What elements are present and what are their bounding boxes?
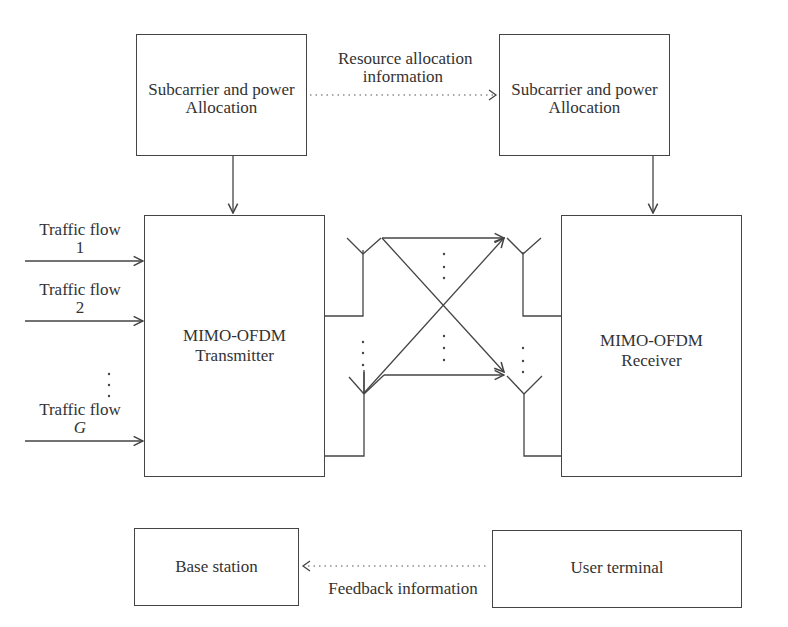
traffic-flow-1-label: Traffic flow bbox=[25, 221, 135, 239]
channel-ellipsis-bottom bbox=[443, 335, 445, 361]
rx-antenna-2-icon bbox=[507, 376, 542, 394]
receiver-line1: MIMO-OFDM bbox=[562, 332, 741, 350]
user-terminal-block: User terminal bbox=[492, 530, 742, 608]
traffic-flow-g-index: G bbox=[25, 419, 135, 437]
traffic-flow-2-index: 2 bbox=[25, 299, 135, 317]
channel-ellipsis-top bbox=[443, 253, 445, 279]
feedback-information-label: Feedback information bbox=[318, 580, 488, 598]
tx-antenna-ellipsis-dots bbox=[362, 341, 364, 366]
rx-allocation-line1: Subcarrier and power bbox=[500, 81, 669, 99]
tx-antenna-2-feed bbox=[324, 372, 364, 456]
rx-antenna-1-feed bbox=[523, 252, 562, 316]
channel-path-2-1 bbox=[364, 238, 504, 393]
rx-allocation-line2: Allocation bbox=[500, 99, 669, 117]
traffic-flow-2-label: Traffic flow bbox=[25, 281, 135, 299]
resource-allocation-label-line2: information bbox=[338, 68, 468, 86]
tx-allocation-line2: Allocation bbox=[137, 99, 306, 117]
base-station-label: Base station bbox=[135, 558, 298, 576]
rx-antenna-ellipsis-dots bbox=[522, 347, 524, 373]
traffic-flow-g-label: Traffic flow bbox=[25, 401, 135, 419]
traffic-ellipsis-dots bbox=[108, 373, 110, 397]
tx-antenna-1-feed bbox=[324, 250, 363, 316]
mimo-ofdm-transmitter-block: MIMO-OFDM Transmitter bbox=[144, 215, 325, 477]
receiver-line2: Receiver bbox=[562, 352, 741, 370]
transmitter-line2: Transmitter bbox=[145, 347, 324, 365]
rx-antenna-1-icon bbox=[507, 238, 541, 254]
resource-allocation-label-line1: Resource allocation bbox=[338, 50, 468, 68]
tx-antenna-1-icon bbox=[347, 238, 381, 254]
tx-allocation-block: Subcarrier and power Allocation bbox=[136, 34, 307, 156]
rx-antenna-2-feed bbox=[524, 393, 562, 456]
tx-allocation-line1: Subcarrier and power bbox=[137, 81, 306, 99]
traffic-flow-1-index: 1 bbox=[25, 239, 135, 257]
user-terminal-label: User terminal bbox=[493, 559, 741, 577]
rx-allocation-block: Subcarrier and power Allocation bbox=[499, 34, 670, 156]
base-station-block: Base station bbox=[134, 528, 299, 606]
mimo-ofdm-receiver-block: MIMO-OFDM Receiver bbox=[561, 215, 742, 477]
transmitter-line1: MIMO-OFDM bbox=[145, 327, 324, 345]
